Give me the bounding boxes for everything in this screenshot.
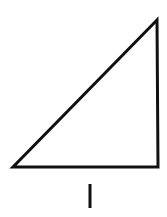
figure-label: I	[86, 182, 94, 213]
right-triangle	[13, 20, 158, 167]
triangle-diagram: I	[0, 0, 167, 217]
